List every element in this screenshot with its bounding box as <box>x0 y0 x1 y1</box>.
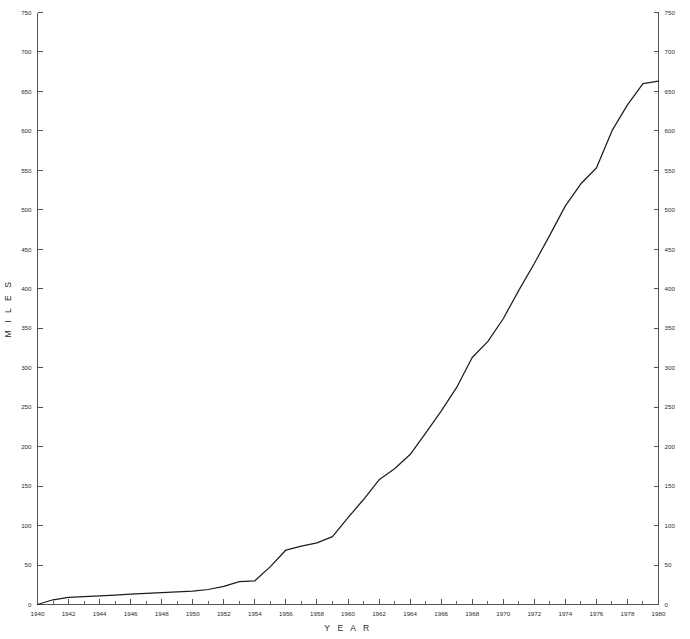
y-axis-tick-label-left: 700 <box>21 48 32 55</box>
data-series-group <box>38 81 659 604</box>
y-axis-tick-label-right: 450 <box>665 246 676 253</box>
x-axis-tick-label: 1940 <box>31 610 45 617</box>
y-axis-tick-label-left: 250 <box>21 403 32 410</box>
x-axis-tick-label: 1972 <box>527 610 541 617</box>
x-axis-tick-label: 1976 <box>590 610 604 617</box>
y-axis-tick-label-right: 550 <box>665 167 676 174</box>
axis-tick-labels-group: 0050501001001501502002002502503003003503… <box>21 9 675 617</box>
axis-ticks-group <box>38 13 659 605</box>
y-axis-tick-label-left: 650 <box>21 88 32 95</box>
y-axis-tick-label-left: 600 <box>21 127 32 134</box>
x-axis-tick-label: 1944 <box>93 610 107 617</box>
x-axis-tick-label: 1954 <box>248 610 262 617</box>
series-line-miles <box>38 81 659 604</box>
x-axis-tick-label: 1948 <box>155 610 169 617</box>
axis-titles-group: Y E A RM I L E S <box>3 279 372 632</box>
y-axis-tick-label-left: 150 <box>21 482 32 489</box>
x-axis-tick-label: 1974 <box>558 610 572 617</box>
y-axis-tick-label-right: 700 <box>665 48 676 55</box>
y-axis-tick-label-left: 0 <box>28 601 32 608</box>
x-axis-tick-label: 1956 <box>279 610 293 617</box>
y-axis-tick-label-right: 250 <box>665 403 676 410</box>
y-axis-tick-label-left: 350 <box>21 324 32 331</box>
y-axis-tick-label-left: 200 <box>21 443 32 450</box>
y-axis-tick-label-right: 500 <box>665 206 676 213</box>
x-axis-title: Y E A R <box>324 623 371 633</box>
y-axis-tick-label-right: 100 <box>665 522 676 529</box>
y-axis-tick-label-left: 50 <box>25 561 32 568</box>
x-axis-tick-label: 1960 <box>341 610 355 617</box>
y-axis-title: M I L E S <box>3 279 13 337</box>
y-axis-tick-label-right: 400 <box>665 285 676 292</box>
x-axis-tick-label: 1950 <box>186 610 200 617</box>
y-axis-tick-label-left: 100 <box>21 522 32 529</box>
y-axis-tick-label-right: 200 <box>665 443 676 450</box>
x-axis-tick-label: 1978 <box>621 610 635 617</box>
y-axis-tick-label-left: 750 <box>21 9 32 16</box>
y-axis-tick-label-right: 650 <box>665 88 676 95</box>
y-axis-tick-label-left: 500 <box>21 206 32 213</box>
y-axis-tick-label-right: 300 <box>665 364 676 371</box>
x-axis-tick-label: 1958 <box>310 610 324 617</box>
x-axis-tick-label: 1952 <box>217 610 231 617</box>
x-axis-tick-label: 1962 <box>372 610 386 617</box>
y-axis-tick-label-left: 550 <box>21 167 32 174</box>
x-axis-tick-label: 1966 <box>434 610 448 617</box>
x-axis-tick-label: 1980 <box>652 610 666 617</box>
y-axis-tick-label-right: 150 <box>665 482 676 489</box>
y-axis-tick-label-left: 300 <box>21 364 32 371</box>
y-axis-tick-label-right: 350 <box>665 324 676 331</box>
y-axis-tick-label-left: 400 <box>21 285 32 292</box>
axes-group <box>38 13 659 605</box>
x-axis-tick-label: 1968 <box>465 610 479 617</box>
y-axis-tick-label-right: 0 <box>665 601 669 608</box>
line-chart: 0050501001001501502002002502503003003503… <box>0 0 690 639</box>
x-axis-tick-label: 1964 <box>403 610 417 617</box>
y-axis-tick-label-left: 450 <box>21 246 32 253</box>
y-axis-tick-label-right: 50 <box>665 561 672 568</box>
x-axis-tick-label: 1946 <box>124 610 138 617</box>
chart-container: 0050501001001501502002002502503003003503… <box>0 0 690 639</box>
x-axis-tick-label: 1970 <box>496 610 510 617</box>
y-axis-tick-label-right: 750 <box>665 9 676 16</box>
y-axis-tick-label-right: 600 <box>665 127 676 134</box>
x-axis-tick-label: 1942 <box>62 610 76 617</box>
